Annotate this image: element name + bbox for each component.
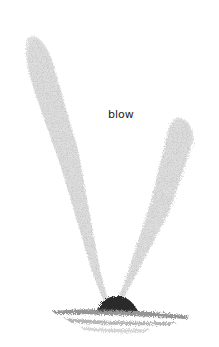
water-surface [52, 309, 190, 332]
left-spray-plume [26, 36, 108, 302]
whale-blow-illustration [0, 0, 219, 347]
blow-label: blow [108, 108, 134, 121]
whale-back [96, 296, 138, 311]
right-spray-plume [118, 118, 194, 300]
